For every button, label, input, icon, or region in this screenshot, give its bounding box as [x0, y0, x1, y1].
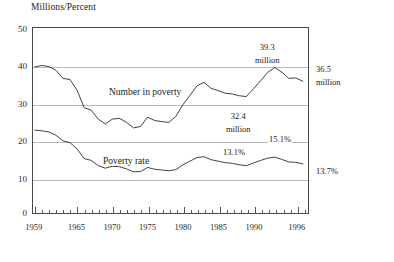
x-axis-label-1970: 1970 [103, 222, 120, 232]
x-tick-1979 [177, 210, 178, 214]
annotation-peak-number-1993-value: 39.3 [255, 41, 280, 54]
y-tick-label-20: 20 [1, 136, 27, 146]
x-tick-1990 [255, 207, 256, 214]
x-tick-1988 [241, 210, 242, 214]
x-tick-1963 [63, 210, 64, 214]
x-tick-1989 [248, 210, 249, 214]
x-axis-label-1975: 1975 [139, 222, 156, 232]
annotation-peak-number-1993: 39.3 million [254, 41, 281, 66]
x-axis-label-1980: 1980 [175, 222, 192, 232]
x-tick-1977 [163, 210, 164, 214]
x-tick-1996 [298, 207, 299, 214]
x-tick-1965 [77, 207, 78, 214]
annotation-peak-number-1993-unit: million [255, 54, 280, 67]
x-axis-label-1996: 1996 [288, 222, 305, 232]
plot-area: Number in poverty Poverty rate 39.3 mill… [32, 27, 309, 214]
series-label-poverty-rate: Poverty rate [101, 156, 151, 166]
x-tick-1991 [262, 210, 263, 214]
x-axis-label-1985: 1985 [210, 222, 227, 232]
x-tick-1995 [291, 210, 292, 214]
x-tick-1968 [99, 210, 100, 214]
edge-label-end-number-unit: million [316, 76, 341, 89]
x-tick-1962 [56, 210, 57, 214]
x-tick-1997 [305, 210, 306, 214]
x-tick-1992 [269, 210, 270, 214]
x-tick-1994 [284, 210, 285, 214]
annotation-trough-number-1986-unit: million [226, 123, 251, 136]
x-tick-1972 [127, 210, 128, 214]
y-tick-label-30: 30 [1, 99, 27, 109]
x-tick-1973 [134, 210, 135, 214]
x-tick-1971 [120, 210, 121, 214]
y-tick-label-40: 40 [1, 61, 27, 71]
x-tick-1970 [113, 207, 114, 214]
x-tick-1986 [227, 210, 228, 214]
x-axis-label-1959: 1959 [25, 222, 42, 232]
x-tick-1981 [191, 210, 192, 214]
y-axis-title: Millions/Percent [31, 2, 96, 12]
y-tick-label-50: 50 [1, 24, 27, 34]
series-label-number-in-poverty: Number in poverty [107, 87, 183, 97]
x-tick-1987 [234, 210, 235, 214]
annotation-trough-number-1986-value: 32.4 [226, 110, 251, 123]
x-tick-1980 [184, 207, 185, 214]
annotation-trough-rate-1989: 13.1% [222, 146, 246, 158]
x-axis-label-1965: 1965 [68, 222, 85, 232]
x-tick-1983 [205, 210, 206, 214]
edge-label-end-number: 36.5 million [316, 63, 341, 88]
x-tick-1969 [106, 210, 107, 214]
poverty-rate-line [35, 130, 303, 172]
x-tick-1964 [70, 210, 71, 214]
x-tick-1985 [220, 207, 221, 214]
x-tick-1961 [49, 210, 50, 214]
x-tick-1978 [170, 210, 171, 214]
x-tick-1982 [198, 210, 199, 214]
annotation-peak-rate-1993: 15.1% [268, 133, 292, 145]
x-tick-1975 [149, 207, 150, 214]
edge-label-end-number-value: 36.5 [316, 63, 341, 76]
y-tick-label-0: 0 [1, 208, 27, 218]
poverty-chart: Millions/Percent 50 40 30 20 10 0 Number… [0, 0, 394, 262]
x-tick-1974 [141, 210, 142, 214]
x-tick-1984 [212, 210, 213, 214]
x-tick-1966 [85, 210, 86, 214]
x-tick-1967 [92, 210, 93, 214]
annotation-trough-number-1986: 32.4 million [225, 110, 252, 135]
x-tick-1959 [35, 207, 36, 214]
x-axis-label-1990: 1990 [246, 222, 263, 232]
x-tick-1960 [42, 210, 43, 214]
edge-label-end-rate: 13.7% [316, 165, 338, 178]
x-tick-1976 [156, 210, 157, 214]
x-tick-1993 [276, 210, 277, 214]
y-tick-label-10: 10 [1, 174, 27, 184]
